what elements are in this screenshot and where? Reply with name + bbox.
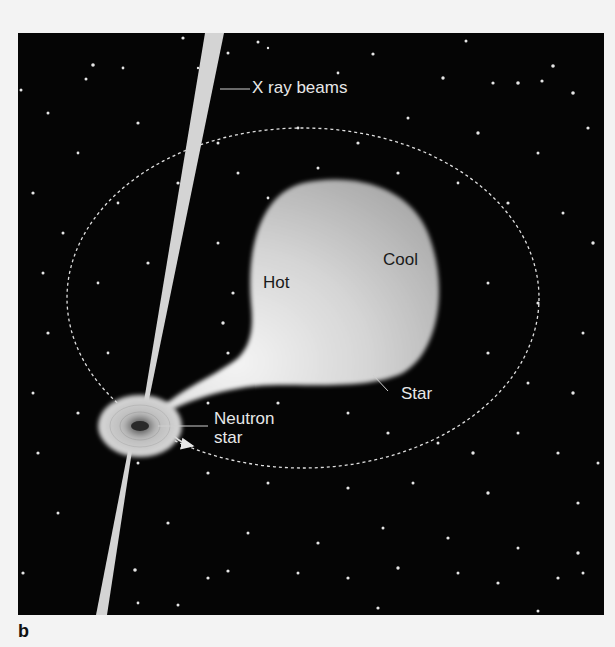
binary-system-illustration — [18, 33, 604, 615]
companion-star — [148, 180, 439, 423]
figure-panel: X ray beams Hot Cool Star Neutron star — [18, 33, 604, 615]
xray-beam-upper — [141, 33, 224, 419]
panel-letter: b — [18, 621, 29, 642]
label-xray-beams: X ray beams — [252, 79, 347, 96]
label-cool: Cool — [383, 251, 418, 268]
label-neutron-star-line2: star — [214, 429, 242, 446]
label-neutron-star-line1: Neutron — [214, 410, 274, 427]
label-star: Star — [401, 385, 432, 402]
label-hot: Hot — [263, 274, 289, 291]
xray-beam-lower — [96, 451, 132, 615]
